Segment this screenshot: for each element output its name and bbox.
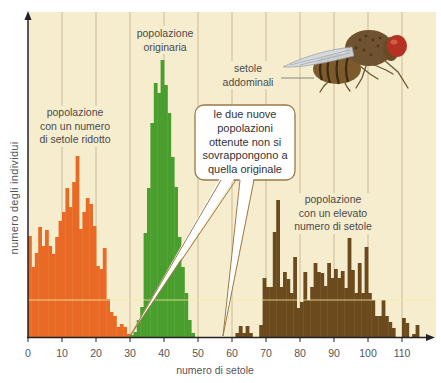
histogram-bar xyxy=(371,300,375,337)
x-tick-label: 20 xyxy=(90,347,102,359)
x-tick-label: 70 xyxy=(260,347,272,359)
histogram-bar xyxy=(365,247,369,337)
histogram-bar xyxy=(293,257,297,337)
label-abdominal-bristles: setole addominali xyxy=(220,61,277,89)
histogram-bar xyxy=(38,227,42,337)
histogram-bar xyxy=(76,156,80,337)
histogram-bar xyxy=(300,302,304,337)
x-tick-label: 40 xyxy=(158,347,170,359)
label-line: popolazione xyxy=(137,26,194,40)
label-line: numero di setole xyxy=(294,220,372,234)
histogram-bar xyxy=(82,212,86,337)
label-original-population: popolazione originaria xyxy=(134,26,197,54)
label-line: con un elevato xyxy=(294,207,372,221)
histogram-bar xyxy=(103,248,107,337)
histogram-bar xyxy=(235,333,239,337)
histogram-bar xyxy=(337,278,341,337)
histogram-bar xyxy=(89,204,93,337)
histogram-bar xyxy=(259,325,263,337)
x-tick-label: 10 xyxy=(56,347,68,359)
histogram-bar xyxy=(263,278,267,337)
histogram-bar xyxy=(42,246,46,337)
x-tick-label: 60 xyxy=(226,347,238,359)
callout-line: sovrappongono a xyxy=(202,149,287,163)
callout-line: quella originale xyxy=(202,163,287,177)
histogram-chart xyxy=(0,0,441,383)
x-tick-label: 50 xyxy=(192,347,204,359)
histogram-bar xyxy=(242,333,246,337)
x-tick-label: 0 xyxy=(25,347,31,359)
label-line: di setole ridotto xyxy=(39,133,110,147)
label-line: con un numero xyxy=(39,120,110,134)
callout-line: le due nuove xyxy=(202,108,287,122)
label-line: popolazione xyxy=(39,106,110,120)
histogram-bar xyxy=(405,323,409,337)
histogram-bar xyxy=(402,318,406,337)
label-line: originaria xyxy=(137,40,194,54)
histogram-bar xyxy=(378,316,382,337)
histogram-bar xyxy=(320,273,324,337)
histogram-bar xyxy=(120,324,124,337)
x-tick-label: 100 xyxy=(359,347,377,359)
y-axis-title: numero degli individui xyxy=(8,142,20,255)
histogram-bar xyxy=(79,229,83,337)
histogram-bar xyxy=(351,270,355,337)
histogram-bar xyxy=(116,327,120,337)
histogram-bar xyxy=(280,287,284,337)
histogram-bar xyxy=(412,334,416,337)
histogram-bar xyxy=(35,253,39,337)
histogram-bar xyxy=(133,332,137,337)
histogram-bar xyxy=(52,254,56,337)
histogram-bar xyxy=(62,212,66,337)
label-elevated-population: popolazione con un elevato numero di set… xyxy=(291,193,375,234)
histogram-bar xyxy=(276,200,280,337)
histogram-bar xyxy=(239,326,243,337)
histogram-bar xyxy=(181,267,185,337)
histogram-bar xyxy=(147,188,151,337)
histogram-bar xyxy=(303,272,307,337)
histogram-bar xyxy=(382,300,386,337)
histogram-bar xyxy=(86,198,90,337)
histogram-bar xyxy=(110,312,114,337)
callout-line: popolazioni xyxy=(202,122,287,136)
histogram-bar xyxy=(65,188,69,337)
histogram-bar xyxy=(167,113,171,337)
histogram-bar xyxy=(317,272,321,337)
label-reduced-population: popolazione con un numero di setole rido… xyxy=(36,106,113,147)
x-tick-label: 110 xyxy=(394,347,411,359)
histogram-bar xyxy=(375,316,379,337)
histogram-bar xyxy=(307,300,311,337)
histogram-bar xyxy=(45,230,49,337)
histogram-bar xyxy=(99,269,103,337)
callout-text: le due nuove popolazioni ottenute non si… xyxy=(202,108,287,177)
histogram-bar xyxy=(249,333,253,337)
histogram-bar xyxy=(123,327,127,337)
histogram-bar xyxy=(246,326,250,337)
x-tick-label: 30 xyxy=(124,347,136,359)
histogram-bar xyxy=(106,299,110,337)
histogram-bar xyxy=(388,322,392,337)
histogram-bar xyxy=(334,269,338,337)
histogram-bar xyxy=(161,60,165,337)
label-line: addominali xyxy=(223,75,274,89)
histogram-bar xyxy=(286,279,290,337)
histogram-bar xyxy=(324,286,328,337)
histogram-bar xyxy=(416,325,420,337)
histogram-bar xyxy=(273,232,277,337)
histogram-bar xyxy=(31,267,35,337)
histogram-bar xyxy=(171,157,175,337)
x-tick-label: 90 xyxy=(328,347,340,359)
label-line: popolazione xyxy=(294,193,372,207)
histogram-bar xyxy=(72,182,76,337)
label-line: setole xyxy=(223,61,274,75)
histogram-bar xyxy=(283,272,287,337)
histogram-bar xyxy=(93,226,97,337)
histogram-bar xyxy=(144,233,148,337)
x-axis-title: numero di setole xyxy=(176,364,254,376)
histogram-bar xyxy=(341,271,345,337)
histogram-bar xyxy=(392,328,396,337)
histogram-bar xyxy=(331,278,335,337)
x-tick-label: 80 xyxy=(294,347,306,359)
histogram-bar xyxy=(310,287,314,337)
histogram-bar xyxy=(164,85,168,337)
